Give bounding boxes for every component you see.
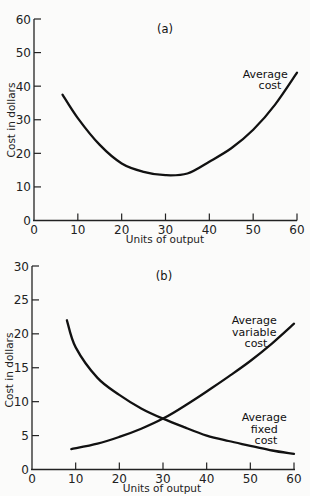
chart-b: 051015202530 0102030405060 (b) Cost in d… <box>3 260 302 495</box>
y-tick-label: 30 <box>16 113 31 127</box>
y-tick-label: 30 <box>14 260 29 274</box>
panel-label: (b) <box>156 269 172 283</box>
x-tick-label: 60 <box>286 472 301 486</box>
y-axis-label: Cost in dollars <box>3 333 15 408</box>
y-tick-label: 40 <box>16 80 31 94</box>
y-tick-label: 25 <box>14 293 29 307</box>
y-tick-label: 5 <box>21 429 29 443</box>
chart-canvas: 0102030405060 0102030405060 (a) Cost in … <box>0 0 310 496</box>
chart-a: 0102030405060 0102030405060 (a) Cost in … <box>5 13 305 246</box>
x-axis-label: Units of output <box>126 233 204 245</box>
y-axis-label: Cost in dollars <box>5 83 17 158</box>
x-tick-label: 0 <box>30 223 38 237</box>
panel-label: (a) <box>157 22 173 36</box>
y-tick-label: 60 <box>16 13 31 27</box>
y-tick-label: 20 <box>14 327 29 341</box>
x-tick-label: 50 <box>246 223 261 237</box>
average-variable-cost-label: Average variable cost <box>232 314 281 350</box>
x-axis-label: Units of output <box>123 482 201 494</box>
y-tick-label: 50 <box>16 46 31 60</box>
average-cost-label: Average cost <box>243 68 292 92</box>
x-tick-label: 10 <box>70 223 85 237</box>
y-tick-label: 10 <box>16 180 31 194</box>
x-tick-label: 10 <box>68 472 83 486</box>
y-tick-label: 15 <box>14 361 29 375</box>
x-tick-label: 0 <box>28 472 36 486</box>
y-tick-label: 20 <box>16 147 31 161</box>
x-tick-label: 40 <box>199 472 214 486</box>
x-tick-label: 50 <box>243 472 258 486</box>
y-tick-label: 10 <box>14 395 29 409</box>
average-fixed-cost-label: Average fixed cost <box>242 411 291 447</box>
x-tick-label: 60 <box>289 223 304 237</box>
